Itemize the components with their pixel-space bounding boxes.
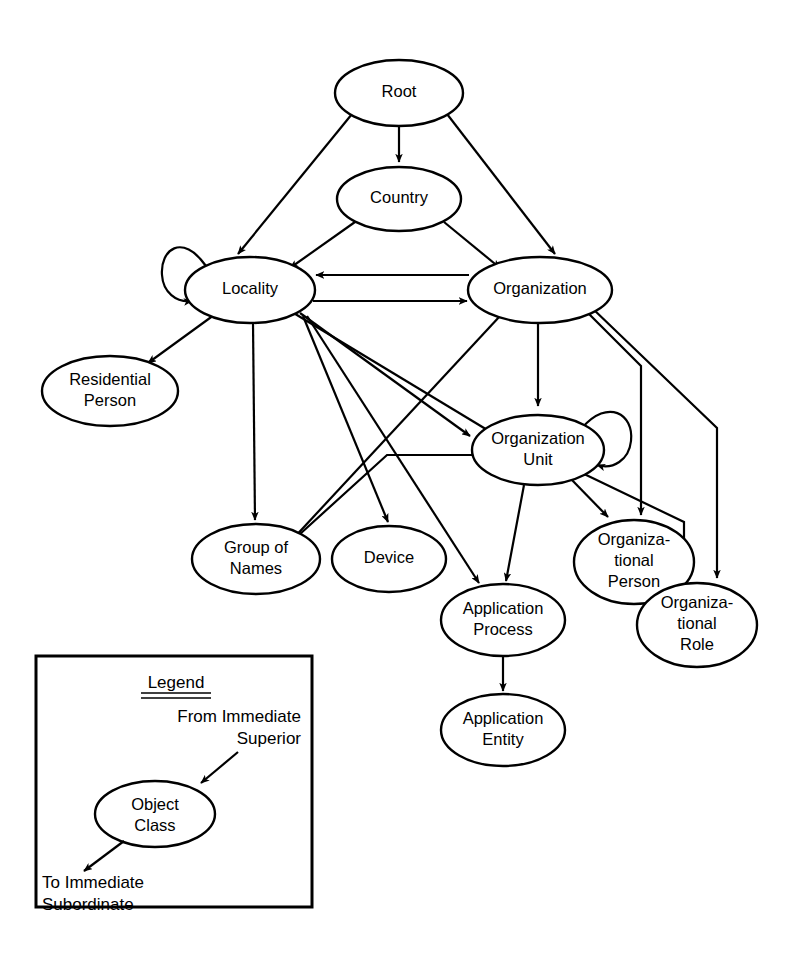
node-orgunit: OrganizationUnit bbox=[472, 415, 604, 485]
node-label-resperson-line1: Residential bbox=[69, 370, 151, 388]
legend-from-superior-arrow bbox=[201, 752, 238, 783]
node-label-country-line1: Country bbox=[370, 188, 429, 206]
node-label-orgperson-line1: Organiza- bbox=[598, 530, 670, 548]
node-label-appentity-line2: Entity bbox=[482, 730, 524, 748]
legend-to-subordinate-arrow bbox=[84, 841, 124, 871]
node-device: Device bbox=[332, 526, 446, 592]
legend-from-superior-line1: From Immediate bbox=[177, 707, 301, 726]
node-label-root-line1: Root bbox=[382, 82, 417, 100]
node-label-orgperson-line3: Person bbox=[608, 572, 660, 590]
edge-root-to-organization bbox=[447, 114, 555, 254]
node-label-appprocess-line1: Application bbox=[463, 599, 544, 617]
node-label-organization-line1: Organization bbox=[493, 279, 587, 297]
legend-object-class-line1: Object bbox=[131, 795, 179, 813]
edge-locality-to-residential-person bbox=[148, 315, 214, 363]
node-label-orgrole-line2: tional bbox=[677, 614, 716, 632]
node-label-device-line1: Device bbox=[364, 548, 414, 566]
node-resperson: ResidentialPerson bbox=[42, 356, 178, 426]
node-orgrole: Organiza-tionalRole bbox=[637, 583, 757, 667]
legend: Legend From Immediate Superior Object Cl… bbox=[36, 656, 312, 914]
edge-organization-unit-to-locality bbox=[287, 309, 489, 431]
node-appentity: ApplicationEntity bbox=[441, 694, 565, 766]
legend-from-superior-line2: Superior bbox=[237, 729, 302, 748]
legend-object-class-line2: Class bbox=[134, 816, 175, 834]
edge-country-to-organization bbox=[444, 222, 500, 268]
legend-object-class-ellipse bbox=[95, 781, 215, 847]
node-locality: Locality bbox=[185, 257, 315, 323]
edge-organization-to-group-of-names bbox=[291, 316, 500, 541]
node-appprocess: ApplicationProcess bbox=[441, 584, 565, 656]
edge-root-to-locality bbox=[238, 114, 352, 254]
legend-to-subordinate-line1: To Immediate bbox=[42, 873, 144, 892]
node-label-groupnames-line1: Group of bbox=[224, 538, 289, 556]
node-label-orgunit-line1: Organization bbox=[491, 429, 585, 447]
node-layer: RootCountryLocalityOrganizationResidenti… bbox=[42, 60, 757, 766]
node-label-appentity-line1: Application bbox=[463, 709, 544, 727]
node-groupnames: Group ofNames bbox=[192, 524, 320, 594]
edge-country-to-locality bbox=[290, 222, 355, 268]
object-class-hierarchy-diagram: RootCountryLocalityOrganizationResidenti… bbox=[0, 0, 791, 970]
node-label-groupnames-line2: Names bbox=[230, 559, 282, 577]
edge-organization-unit-to-application-process bbox=[506, 485, 524, 581]
node-label-orgrole-line3: Role bbox=[680, 635, 714, 653]
node-label-orgperson-line2: tional bbox=[614, 551, 653, 569]
node-label-orgrole-line1: Organiza- bbox=[661, 593, 733, 611]
edge-locality-to-group-of-names bbox=[253, 323, 255, 520]
node-label-locality-line1: Locality bbox=[222, 279, 279, 297]
legend-title: Legend bbox=[148, 673, 205, 692]
node-country: Country bbox=[337, 167, 461, 231]
node-root: Root bbox=[335, 60, 463, 126]
node-label-resperson-line2: Person bbox=[84, 391, 136, 409]
legend-to-subordinate-line2: Subordinate bbox=[42, 895, 134, 914]
node-label-appprocess-line2: Process bbox=[473, 620, 533, 638]
node-label-orgunit-line2: Unit bbox=[523, 450, 553, 468]
diagram-canvas: RootCountryLocalityOrganizationResidenti… bbox=[0, 0, 791, 970]
node-organization: Organization bbox=[468, 257, 612, 323]
